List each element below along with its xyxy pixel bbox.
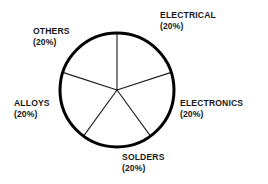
- slice-label-alloys-value: (20%): [14, 109, 50, 120]
- pie-chart-figure: ELECTRICAL (20%) ELECTRONICS (20%) SOLDE…: [0, 0, 268, 184]
- slice-label-others-name: OTHERS: [33, 26, 70, 37]
- slice-label-solders-value: (20%): [122, 163, 165, 174]
- slice-label-alloys-name: ALLOYS: [14, 98, 50, 109]
- slice-label-others-value: (20%): [33, 37, 70, 48]
- slice-label-electrical-name: ELECTRICAL: [160, 10, 216, 21]
- slice-label-electrical-value: (20%): [160, 21, 216, 32]
- slice-label-solders-name: SOLDERS: [122, 152, 165, 163]
- slice-label-alloys: ALLOYS (20%): [14, 98, 50, 120]
- slice-label-others: OTHERS (20%): [33, 26, 70, 48]
- slice-label-solders: SOLDERS (20%): [122, 152, 165, 174]
- slice-label-electrical: ELECTRICAL (20%): [160, 10, 216, 32]
- slice-label-electronics-value: (20%): [180, 109, 243, 120]
- slice-label-electronics: ELECTRONICS (20%): [180, 98, 243, 120]
- slice-label-electronics-name: ELECTRONICS: [180, 98, 243, 109]
